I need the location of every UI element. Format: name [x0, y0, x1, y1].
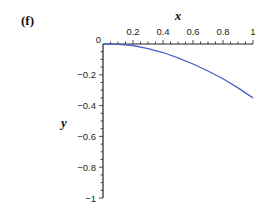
x-tick-label: 0.2 — [126, 26, 139, 37]
data-line — [103, 44, 253, 98]
y-tick-label: −0.8 — [77, 162, 96, 173]
y-axis-label: y — [59, 115, 67, 130]
x-tick-label: 0.4 — [156, 26, 169, 37]
y-tick-label: −0.2 — [77, 69, 96, 80]
x-tick-label: 0.6 — [186, 26, 199, 37]
y-tick-label: −1 — [85, 193, 96, 204]
x-tick-label: 0.8 — [216, 26, 229, 37]
x-tick-label: 1 — [250, 26, 255, 37]
line-chart: 0.20.40.60.810−0.2−0.4−0.6−0.8−1xy — [0, 0, 262, 208]
y-tick-label: −0.6 — [77, 131, 96, 142]
x-axis-label: x — [174, 8, 182, 23]
y-tick-label: −0.4 — [77, 100, 96, 111]
y-tick-label: 0 — [96, 34, 101, 45]
